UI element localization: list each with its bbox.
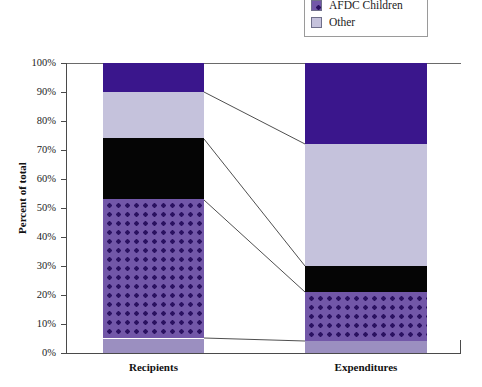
legend-item-other: Other xyxy=(311,14,421,30)
y-tick-label-50pct: 50% xyxy=(0,203,56,213)
legend-label-other: Other xyxy=(329,16,355,28)
y-tick-label-0pct: 0% xyxy=(0,348,56,358)
bar-segment-light-purple[interactable] xyxy=(103,339,204,354)
y-tick-label-80pct: 80% xyxy=(0,116,56,126)
y-tick-mark-20pct xyxy=(61,295,67,296)
bar-segment-dotted-purple[interactable] xyxy=(103,199,204,338)
x-axis-right-end xyxy=(460,340,461,354)
bar-expenditures[interactable] xyxy=(305,63,427,353)
y-tick-label-40pct: 40% xyxy=(0,232,56,242)
bar-segment-lavender[interactable] xyxy=(103,92,204,138)
y-tick-label-20pct: 20% xyxy=(0,290,56,300)
x-tick-label-expenditures: Expenditures xyxy=(305,361,427,373)
chart-legend: AFDC Children Other xyxy=(304,0,428,37)
bar-segment-black[interactable] xyxy=(305,266,427,292)
y-tick-mark-10pct xyxy=(61,324,67,325)
bar-segment-light-purple[interactable] xyxy=(305,341,427,353)
y-tick-mark-50pct xyxy=(61,208,67,209)
bar-segment-dark-purple[interactable] xyxy=(103,63,204,92)
y-tick-mark-40pct xyxy=(61,237,67,238)
bar-segment-lavender[interactable] xyxy=(305,144,427,266)
y-tick-mark-90pct xyxy=(61,92,67,93)
y-tick-label-90pct: 90% xyxy=(0,87,56,97)
y-tick-label-70pct: 70% xyxy=(0,145,56,155)
legend-item-afdc-children: AFDC Children xyxy=(311,0,421,13)
bar-segment-dotted-purple[interactable] xyxy=(305,292,427,341)
y-tick-mark-100pct xyxy=(61,63,67,64)
y-tick-mark-60pct xyxy=(61,179,67,180)
bar-segment-dark-purple[interactable] xyxy=(305,63,427,144)
x-axis-line xyxy=(66,353,461,354)
bar-recipients[interactable] xyxy=(103,63,204,353)
y-tick-mark-80pct xyxy=(61,121,67,122)
other-swatch xyxy=(311,17,322,28)
y-tick-mark-70pct xyxy=(61,150,67,151)
afdc-children-swatch xyxy=(311,0,322,11)
y-tick-label-100pct: 100% xyxy=(0,58,56,68)
x-tick-label-recipients: Recipients xyxy=(103,361,204,373)
bar-segment-black[interactable] xyxy=(103,138,204,199)
legend-label-afdc-children: AFDC Children xyxy=(329,0,403,11)
y-tick-mark-0pct xyxy=(61,353,67,354)
y-tick-label-30pct: 30% xyxy=(0,261,56,271)
y-tick-label-60pct: 60% xyxy=(0,174,56,184)
y-tick-mark-30pct xyxy=(61,266,67,267)
y-tick-label-10pct: 10% xyxy=(0,319,56,329)
